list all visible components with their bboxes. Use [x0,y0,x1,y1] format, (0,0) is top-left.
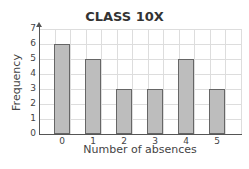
gridline-vertical [225,29,226,134]
y-tick-2: 2 [28,98,36,108]
y-tick-7: 7 [28,23,36,33]
y-axis-arrow-icon [36,22,42,27]
bar-1 [85,59,101,134]
y-tick-5: 5 [28,53,36,63]
y-axis [39,25,40,135]
gridline-vertical [194,29,195,134]
gridline-vertical [241,29,242,134]
bar-2 [116,89,132,134]
y-tick-6: 6 [28,38,36,48]
plot-area [39,29,241,134]
x-axis [39,134,242,135]
gridline-vertical [101,29,102,134]
x-axis-label: Number of absences [39,143,241,156]
y-tick-4: 4 [28,68,36,78]
y-tick-0: 0 [28,128,36,138]
bar-0 [54,44,70,134]
bar-3 [147,89,163,134]
bar-5 [209,89,225,134]
gridline-vertical [70,29,71,134]
y-axis-label: Frequency [10,53,23,113]
gridline-vertical [132,29,133,134]
gridline-vertical [163,29,164,134]
y-tick-1: 1 [28,113,36,123]
y-tick-3: 3 [28,83,36,93]
bar-4 [178,59,194,134]
